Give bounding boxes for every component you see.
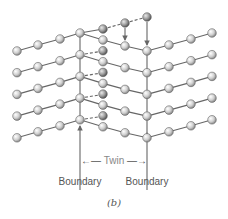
atom xyxy=(121,129,130,138)
displaced-atom xyxy=(143,13,152,22)
displaced-atom xyxy=(99,46,108,55)
atom xyxy=(34,128,43,137)
atom xyxy=(187,56,196,65)
atom xyxy=(208,50,217,59)
atom xyxy=(56,100,65,109)
right-boundary-label: Boundary xyxy=(126,176,169,187)
atom xyxy=(13,134,22,143)
displaced-atom xyxy=(121,19,130,28)
atom xyxy=(208,116,217,125)
atom xyxy=(56,56,65,65)
displaced-atom xyxy=(99,25,108,34)
atom xyxy=(34,62,43,71)
atom xyxy=(143,90,152,99)
atom xyxy=(208,94,217,103)
atom xyxy=(76,50,85,59)
atom xyxy=(13,90,22,99)
twin-boundary-diagram xyxy=(0,0,228,219)
atom xyxy=(165,106,174,115)
atom xyxy=(187,35,196,44)
atom xyxy=(99,57,108,66)
displaced-atom xyxy=(99,68,108,77)
twin-label: ←— Twin —→ xyxy=(81,155,147,166)
atom xyxy=(76,94,85,103)
atom xyxy=(121,42,130,51)
atom xyxy=(56,35,65,44)
atom xyxy=(143,134,152,143)
atom xyxy=(187,122,196,131)
atom xyxy=(99,79,108,88)
atom xyxy=(143,112,152,121)
atom xyxy=(13,112,22,121)
atom xyxy=(121,85,130,94)
atom xyxy=(143,68,152,77)
atom xyxy=(208,29,217,38)
atom xyxy=(165,128,174,137)
atom xyxy=(56,78,65,87)
atom xyxy=(121,63,130,72)
atom xyxy=(187,78,196,87)
atom xyxy=(165,41,174,50)
atom xyxy=(56,122,65,131)
left-boundary-label: Boundary xyxy=(59,176,102,187)
atom xyxy=(99,101,108,110)
atom xyxy=(121,107,130,116)
figure-caption: (b) xyxy=(107,197,121,208)
atom xyxy=(76,116,85,125)
atom xyxy=(165,62,174,71)
atom xyxy=(34,41,43,50)
atom xyxy=(187,100,196,109)
atom xyxy=(13,68,22,77)
atom xyxy=(99,36,108,45)
atom xyxy=(76,29,85,38)
atom xyxy=(76,72,85,81)
displaced-atom xyxy=(99,112,108,121)
atom xyxy=(143,47,152,56)
atom xyxy=(165,84,174,93)
atom xyxy=(99,123,108,132)
atoms xyxy=(13,13,217,142)
atom xyxy=(34,106,43,115)
displaced-atom xyxy=(99,90,108,99)
atom xyxy=(208,72,217,81)
atom xyxy=(13,47,22,56)
atom xyxy=(34,84,43,93)
